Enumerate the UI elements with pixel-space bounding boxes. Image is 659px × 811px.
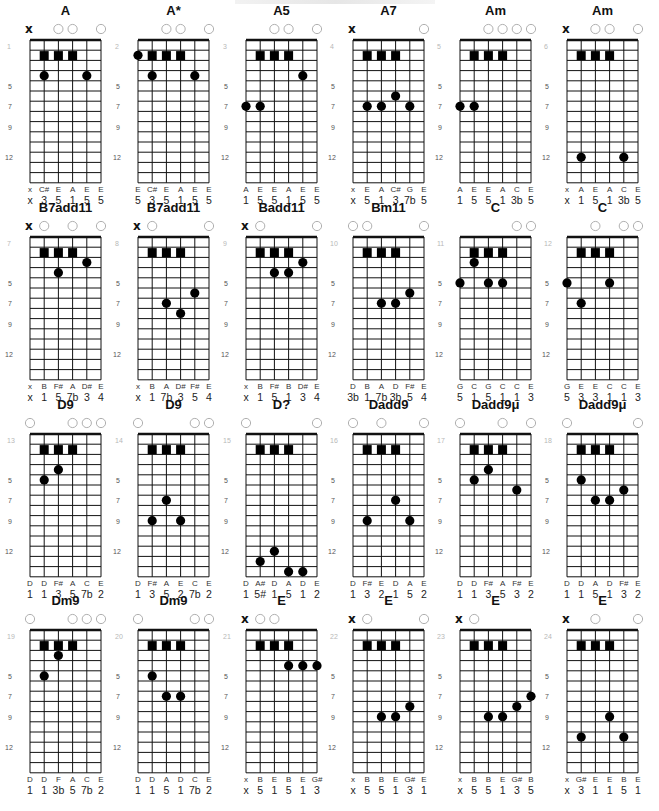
position-number: 22 [330, 633, 338, 640]
open-string-circle-icon [633, 418, 642, 427]
position-number: 16 [330, 437, 338, 444]
fret-marker-label: 9 [224, 518, 228, 525]
fret-marker-label: 9 [331, 518, 335, 525]
chord-diagram: Ex2357912xBBEG#Bx55135 [435, 585, 543, 782]
root-square-marker [577, 445, 586, 454]
finger-dot [405, 516, 414, 525]
fret-marker-label: 12 [542, 351, 550, 358]
chord-name: A* [166, 3, 181, 18]
fret-marker-label: 5 [438, 83, 442, 90]
string-note: B [486, 775, 491, 784]
root-square-marker [498, 248, 507, 257]
open-string-circle-icon [190, 614, 199, 623]
finger-dot [605, 712, 614, 721]
finger-dot [605, 278, 614, 287]
open-string-circle-icon [526, 418, 535, 427]
chord-diagram: B7add11x857912xBAD#F#Ex17b354 [113, 192, 221, 389]
string-note: E [300, 775, 305, 784]
position-number: 20 [115, 633, 123, 640]
chord-name: D? [272, 397, 289, 412]
chord-name: E [384, 593, 393, 608]
finger-dot [455, 102, 464, 111]
root-square-marker [269, 641, 278, 650]
chord-name: A7 [380, 3, 397, 18]
string-note: B [621, 775, 626, 784]
open-string-circle-icon [562, 418, 571, 427]
finger-dot [377, 299, 386, 308]
fret-marker-label: 9 [438, 518, 442, 525]
string-note: C [191, 775, 197, 784]
open-string-circle-icon [284, 24, 293, 33]
chord-diagram: Ax157912xC#EAEEx35155 [5, 0, 113, 192]
open-string-circle-icon [470, 614, 479, 623]
fret-marker-label: 5 [331, 280, 335, 287]
fret-marker-label: 12 [113, 548, 121, 555]
finger-dot [82, 71, 91, 80]
fret-marker-label: 9 [331, 321, 335, 328]
root-square-marker [147, 641, 156, 650]
root-square-marker [255, 51, 264, 60]
open-string-circle-icon [204, 221, 213, 230]
root-square-marker [377, 51, 386, 60]
position-number: 5 [437, 43, 441, 50]
root-square-marker [284, 51, 293, 60]
position-number: 24 [544, 633, 552, 640]
string-degree: 2 [98, 784, 104, 796]
finger-dot [190, 289, 199, 298]
open-string-circle-icon [190, 418, 199, 427]
root-square-marker [391, 51, 400, 60]
chord-diagram: Dadd91657912DF#EDAE132152 [328, 389, 436, 586]
open-string-circle-icon [25, 614, 34, 623]
fret-marker-label: 9 [224, 124, 228, 131]
root-square-marker [605, 445, 614, 454]
string-degree: 5 [70, 784, 76, 796]
root-square-marker [68, 445, 77, 454]
chord-name: C [491, 200, 501, 215]
fret-marker-label: 5 [331, 673, 335, 680]
string-degree: 1 [271, 784, 277, 796]
fret-marker-label: 5 [438, 280, 442, 287]
chord-diagram: A*257912EC#EAEE535155 [113, 0, 221, 192]
open-string-circle-icon [269, 24, 278, 33]
open-string-circle-icon [591, 221, 600, 230]
open-string-circle-icon [161, 24, 170, 33]
open-string-circle-icon [96, 24, 105, 33]
root-square-marker [40, 248, 49, 257]
open-string-circle-icon [312, 221, 321, 230]
fret-marker-label: 9 [8, 714, 12, 721]
finger-dot [54, 651, 63, 660]
root-square-marker [147, 445, 156, 454]
root-square-marker [68, 641, 77, 650]
muted-string-x-icon: x [133, 219, 141, 233]
finger-dot [147, 71, 156, 80]
string-degree: 5 [285, 784, 291, 796]
finger-dot [498, 712, 507, 721]
open-string-circle-icon [619, 221, 628, 230]
fret-marker-label: 7 [438, 103, 442, 110]
fret-marker-label: 9 [331, 124, 335, 131]
open-string-circle-icon [204, 614, 213, 623]
string-note: E [206, 775, 211, 784]
open-string-circle-icon [591, 24, 600, 33]
finger-dot [562, 278, 571, 287]
fretboard-grid: Dadd9μ1857912DDADF#E115132 [542, 389, 659, 589]
muted-string-x-icon: x [562, 612, 570, 626]
position-number: 2 [115, 43, 119, 50]
fretboard-grid: C1257912GEECCE533113 [542, 192, 659, 392]
muted-string-x-icon: x [241, 612, 249, 626]
finger-dot [40, 475, 49, 484]
root-square-marker [470, 51, 479, 60]
fret-marker-label: 12 [5, 744, 13, 751]
fret-marker-label: 9 [438, 714, 442, 721]
position-number: 10 [330, 240, 338, 247]
root-square-marker [377, 445, 386, 454]
chord-name: Am [592, 3, 613, 18]
open-string-circle-icon [96, 418, 105, 427]
root-square-marker [269, 51, 278, 60]
chord-name: D9 [165, 397, 182, 412]
finger-dot [391, 92, 400, 101]
open-string-circle-icon [133, 418, 142, 427]
finger-dot [391, 299, 400, 308]
fret-marker-label: 9 [545, 124, 549, 131]
fret-marker-label: 5 [545, 477, 549, 484]
